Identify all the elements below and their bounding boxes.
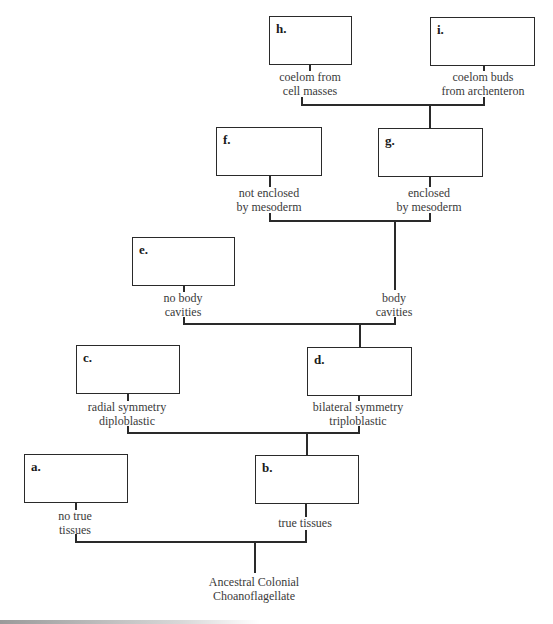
box-e-letter: e. xyxy=(139,242,148,258)
box-g: g. xyxy=(378,128,483,177)
box-b: b. xyxy=(255,455,359,504)
branch-label-g: enclosed by mesoderm xyxy=(397,186,462,214)
branch-label-b: true tissues xyxy=(278,516,332,530)
branch-label-e: no body cavities xyxy=(164,291,203,319)
box-f-letter: f. xyxy=(223,132,231,148)
box-a: a. xyxy=(24,454,128,503)
node-fg-down xyxy=(394,220,396,290)
node-e-to-d xyxy=(359,323,361,347)
stem-b-top xyxy=(305,503,307,517)
box-i-letter: i. xyxy=(437,22,444,38)
root-stem xyxy=(254,541,256,573)
bar-ab xyxy=(75,541,307,543)
bar-hi xyxy=(301,104,485,106)
box-a-letter: a. xyxy=(31,459,41,475)
root-label: Ancestral Colonial Choanoflagellate xyxy=(209,575,299,603)
box-i: i. xyxy=(430,17,535,66)
node-hi-to-g xyxy=(429,104,431,128)
box-b-letter: b. xyxy=(262,460,272,476)
box-e: e. xyxy=(132,237,235,286)
box-g-letter: g. xyxy=(385,133,395,149)
page-edge-shadow xyxy=(0,620,260,624)
branch-label-f: not enclosed by mesoderm xyxy=(237,186,302,214)
box-h-letter: h. xyxy=(276,21,286,37)
node-cd-to-b xyxy=(306,432,308,455)
bar-fg xyxy=(269,220,431,222)
bar-e-body xyxy=(183,323,396,325)
box-d-letter: d. xyxy=(314,352,324,368)
bar-cd xyxy=(127,432,360,434)
branch-label-h: coelom from cell masses xyxy=(279,70,341,98)
branch-label-c: radial symmetry diploblastic xyxy=(88,400,166,428)
branch-label-d: bilateral symmetry triploblastic xyxy=(313,400,403,428)
box-h: h. xyxy=(269,16,352,65)
box-c-letter: c. xyxy=(83,350,92,366)
box-c: c. xyxy=(76,345,180,394)
branch-label-a: no true tissues xyxy=(58,509,92,537)
branch-label-i: coelom buds from archenteron xyxy=(442,70,525,98)
box-d: d. xyxy=(307,347,412,396)
branch-label-body-cavities: body cavities xyxy=(376,291,413,319)
box-f: f. xyxy=(216,127,322,176)
